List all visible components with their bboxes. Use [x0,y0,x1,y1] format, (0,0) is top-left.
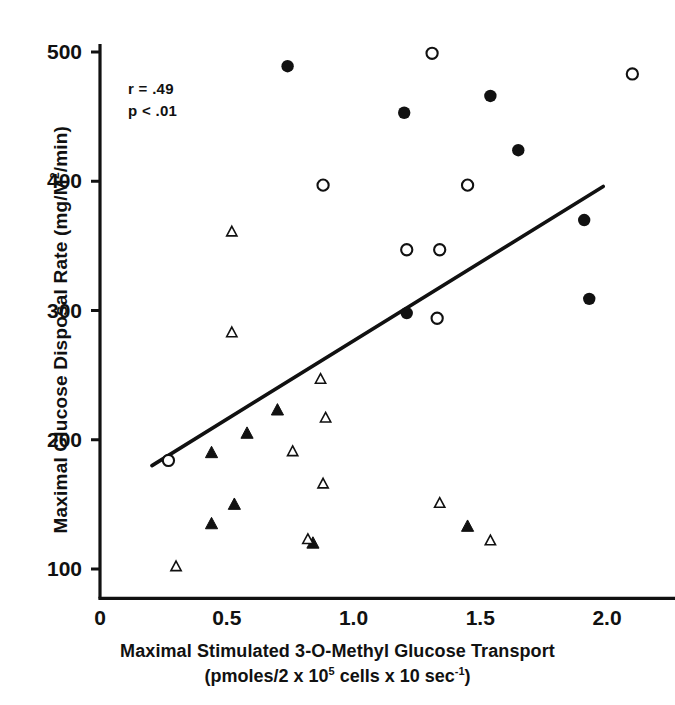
point-filled-triangle-0 [271,404,283,415]
x-tick-label-0: 0 [70,606,130,630]
point-filled-circle-1 [398,107,410,119]
y-tick-label-100: 100 [22,557,82,581]
point-filled-triangle-1 [241,427,253,438]
point-open-triangle-5 [318,478,328,488]
scatter-plot-figure: r = .49 p < .01 Maximal Glucose Disposal… [0,0,675,705]
point-open-circle-6 [432,313,443,324]
point-filled-triangle-4 [205,517,217,528]
regression-line [152,186,603,465]
x-tick-label-0.5: 0.5 [197,606,257,630]
point-filled-triangle-5 [461,520,473,531]
point-open-circle-0 [426,48,437,59]
x-tick-label-1.0: 1.0 [324,606,384,630]
point-filled-circle-3 [512,144,524,156]
point-filled-circle-6 [401,307,413,319]
point-open-circle-3 [462,180,473,191]
point-open-circle-2 [317,180,328,191]
plot-canvas [0,0,675,705]
point-filled-circle-2 [484,90,496,102]
point-filled-circle-5 [583,293,595,305]
annotation-r: r = .49 [128,78,177,100]
point-open-triangle-0 [227,226,237,236]
point-filled-triangle-3 [228,498,240,509]
y-axis-title: Maximal Glucose Disposal Rate (mg/M2/min… [48,70,71,590]
y-tick-label-200: 200 [22,428,82,452]
point-open-circle-5 [434,244,445,255]
point-filled-triangle-2 [205,446,217,457]
x-tick-label-2.0: 2.0 [577,606,637,630]
point-open-triangle-3 [320,412,330,422]
point-open-triangle-9 [171,561,181,571]
point-open-triangle-2 [315,374,325,384]
point-filled-circle-0 [281,60,293,72]
annotation-p: p < .01 [128,100,177,122]
point-open-circle-7 [163,455,174,466]
stats-annotation: r = .49 p < .01 [128,78,177,122]
point-open-triangle-4 [288,446,298,456]
point-open-triangle-6 [435,498,445,508]
x-axis-title: Maximal Stimulated 3-O-Methyl Glucose Tr… [0,641,675,662]
x-axis-units: (pmoles/2 x 105 cells x 10 sec-1) [0,665,675,687]
point-open-triangle-1 [227,327,237,337]
point-open-circle-4 [401,244,412,255]
point-filled-circle-4 [578,214,590,226]
y-tick-label-500: 500 [22,40,82,64]
y-tick-label-400: 400 [22,169,82,193]
point-open-circle-1 [627,68,638,79]
x-tick-label-1.5: 1.5 [450,606,510,630]
y-tick-label-300: 300 [22,299,82,323]
point-open-triangle-8 [485,535,495,545]
